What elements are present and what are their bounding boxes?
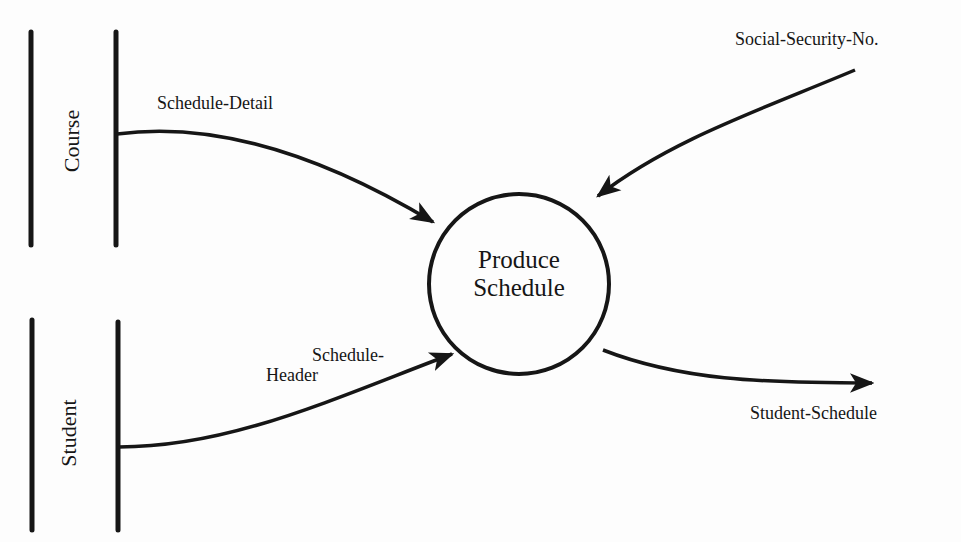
flow-label-schedule-header-line1: Schedule- (264, 345, 384, 365)
flow-label-student-schedule: Student-Schedule (750, 403, 877, 423)
flow-label-schedule-header-line2: Header (264, 365, 384, 385)
process-label-line1: Produce (434, 246, 604, 274)
flow-arrow-student-schedule (603, 350, 872, 383)
data-store-label-student: Student (56, 388, 82, 478)
flow-label-social-security-no: Social-Security-No. (735, 29, 878, 49)
process-label-line2: Schedule (434, 274, 604, 302)
process-label: Produce Schedule (434, 246, 604, 302)
flow-arrow-schedule-detail (117, 131, 433, 222)
diagram-canvas: Course Student Produce Schedule Schedule… (0, 0, 961, 542)
flow-arrow-social-security-no (598, 70, 855, 196)
data-store-label-course: Course (59, 101, 85, 181)
flow-label-schedule-header: Schedule- Header (264, 345, 384, 385)
flow-label-schedule-detail: Schedule-Detail (157, 93, 273, 113)
